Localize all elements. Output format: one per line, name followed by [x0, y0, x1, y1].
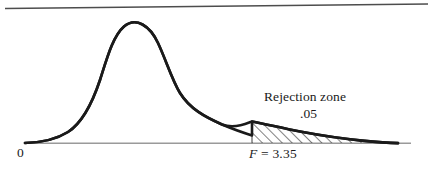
equals-sign: =: [257, 146, 272, 161]
rejection-region-hatch: [250, 115, 402, 145]
alpha-level-label: .05: [300, 107, 317, 121]
figure-canvas: [0, 0, 430, 181]
f-critical-label: F = 3.35: [249, 147, 297, 161]
f-critical-value: 3.35: [272, 146, 296, 161]
distribution-curve-outline: [25, 22, 398, 143]
distribution-curve: [25, 22, 398, 143]
rejection-zone-label: Rejection zone: [264, 90, 346, 104]
f-distribution-figure: Rejection zone .05 F = 3.35 0: [0, 0, 430, 181]
origin-axis-label: 0: [17, 146, 24, 160]
top-divider-rule: [5, 4, 428, 9]
